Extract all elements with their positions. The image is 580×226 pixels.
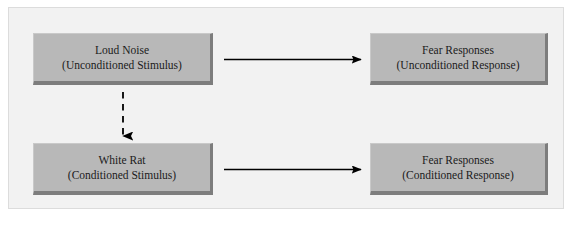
node-title: Fear Responses xyxy=(422,153,494,167)
node-subtitle: (Conditioned Response) xyxy=(402,168,513,182)
node-title: White Rat xyxy=(99,153,146,167)
node-conditioned-response: Fear Responses (Conditioned Response) xyxy=(370,143,548,195)
classical-conditioning-diagram: Loud Noise (Unconditioned Stimulus) Fear… xyxy=(0,0,580,226)
node-title: Loud Noise xyxy=(95,43,149,57)
node-conditioned-stimulus: White Rat (Conditioned Stimulus) xyxy=(33,143,213,195)
node-unconditioned-response: Fear Responses (Unconditioned Response) xyxy=(370,33,548,85)
node-subtitle: (Unconditioned Response) xyxy=(397,58,520,72)
node-subtitle: (Conditioned Stimulus) xyxy=(68,168,176,182)
node-title: Fear Responses xyxy=(422,43,494,57)
node-unconditioned-stimulus: Loud Noise (Unconditioned Stimulus) xyxy=(33,33,213,85)
node-subtitle: (Unconditioned Stimulus) xyxy=(62,58,182,72)
